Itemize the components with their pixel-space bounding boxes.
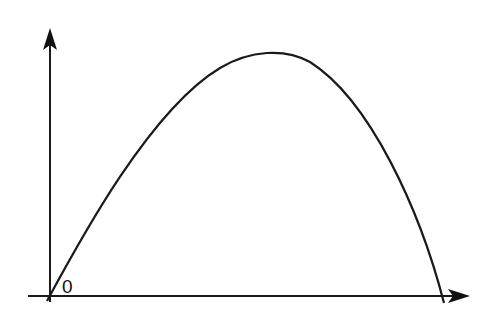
origin-label: 0 xyxy=(62,276,73,297)
diagram-canvas: 0 xyxy=(0,0,493,318)
parabola-curve xyxy=(47,53,444,303)
